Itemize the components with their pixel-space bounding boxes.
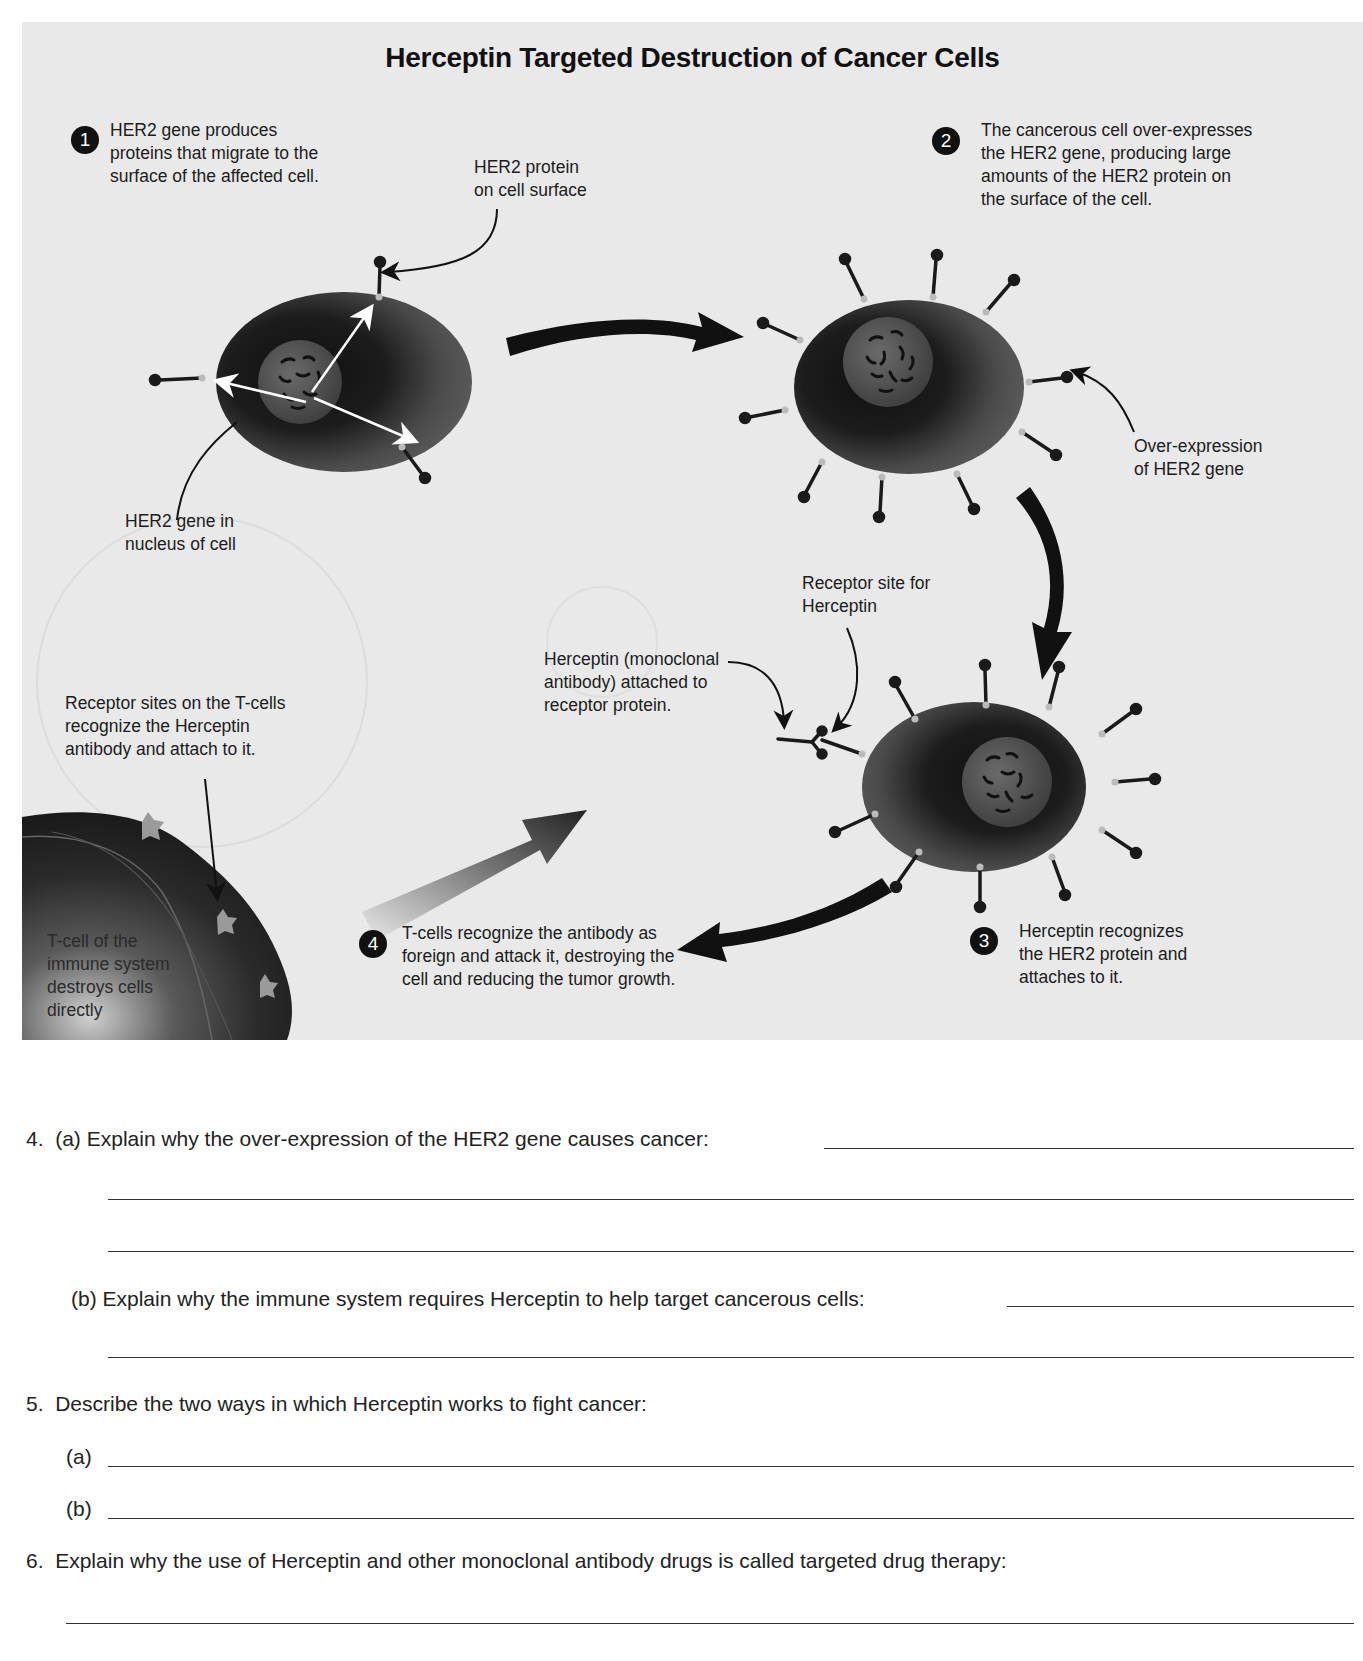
label-line: destroys cells [47,976,170,999]
label-line: Herceptin (monoclonal [544,648,719,671]
step-2-line: The cancerous cell over-expresses [981,119,1252,142]
question-number: 6. [26,1549,44,1572]
over-expression-label: Over-expression of HER2 gene [1134,435,1262,481]
answer-line-4b-1[interactable] [1007,1306,1354,1307]
tcell-attack-arrow [362,810,587,940]
label-line: HER2 gene in [125,510,236,533]
label-line: recognize the Herceptin [65,715,285,738]
step-1-line: proteins that migrate to the [110,142,319,165]
step-4-text: T-cells recognize the antibody as foreig… [402,922,675,991]
cancer-cell-overexpressing [741,251,1072,522]
question-text: Explain why the immune system requires H… [103,1287,865,1310]
step-3-badge: 3 [970,927,998,955]
label-line: antibody) attached to [544,671,719,694]
answer-line-5b[interactable] [108,1518,1354,1519]
step-1-line: HER2 gene produces [110,119,319,142]
her2-protein-pointer [388,209,497,272]
label-line: of HER2 gene [1134,458,1262,481]
label-line: on cell surface [474,179,587,202]
tcell-label: T-cell of the immune system destroys cel… [47,930,170,1022]
step-1-line: surface of the affected cell. [110,165,319,188]
step-4-line: T-cells recognize the antibody as [402,922,675,945]
progress-arrow-3-4 [677,878,892,962]
step-3-line: Herceptin recognizes [1019,920,1187,943]
step-4-badge: 4 [359,930,387,958]
label-line: Receptor sites on the T-cells [65,692,285,715]
step-4-line: cell and reducing the tumor growth. [402,968,675,991]
step-3-line: the HER2 protein and [1019,943,1187,966]
her2-protein-label: HER2 protein on cell surface [474,156,587,202]
answer-line-4b-2[interactable] [108,1357,1354,1358]
step-2-line: amounts of the HER2 protein on [981,165,1252,188]
question-text: Explain why the over-expression of the H… [87,1127,709,1150]
diagram-title: Herceptin Targeted Destruction of Cancer… [22,42,1363,74]
answer-line-4a-2[interactable] [108,1199,1354,1200]
step-2-text: The cancerous cell over-expresses the HE… [981,119,1252,211]
part-label: (a) [55,1127,81,1150]
label-line: receptor protein. [544,694,719,717]
progress-arrow-2-3 [1016,487,1072,680]
step-3-line: attaches to it. [1019,966,1187,989]
step-2-badge: 2 [932,127,960,155]
her2-gene-label: HER2 gene in nucleus of cell [125,510,236,556]
question-number: 5. [26,1392,44,1415]
herceptin-attached-label: Herceptin (monoclonal antibody) attached… [544,648,719,717]
question-text: Explain why the use of Herceptin and oth… [55,1549,1006,1572]
herceptin-attached-pointer [728,662,784,722]
label-line: directly [47,999,170,1022]
answer-line-6[interactable] [66,1623,1354,1624]
label-line: HER2 protein [474,156,587,179]
step-1-text: HER2 gene produces proteins that migrate… [110,119,319,188]
label-line: immune system [47,953,170,976]
diagram-panel: Herceptin Targeted Destruction of Cancer… [22,22,1363,1040]
step-4-line: foreign and attack it, destroying the [402,945,675,968]
step-2-line: the HER2 gene, producing large [981,142,1252,165]
label-line: Over-expression [1134,435,1262,458]
normal-cell [151,258,473,483]
receptor-site-pointer [837,628,857,727]
question-text: Describe the two ways in which Herceptin… [55,1392,647,1415]
progress-arrow-1-2 [506,312,744,356]
question-5b-label: (b) [66,1497,92,1521]
part-label: (b) [71,1287,97,1310]
overexpression-pointer [1077,372,1134,432]
question-5: 5. Describe the two ways in which Hercep… [26,1392,647,1416]
step-3-text: Herceptin recognizes the HER2 protein an… [1019,920,1187,989]
label-line: Receptor site for [802,572,930,595]
label-line: nucleus of cell [125,533,236,556]
cancer-cell-with-herceptin [778,661,1160,912]
answer-line-5a[interactable] [108,1466,1354,1467]
answer-line-4a-3[interactable] [108,1251,1354,1252]
step-1-badge: 1 [71,126,99,154]
step-2-line: the surface of the cell. [981,188,1252,211]
answer-line-4a-1[interactable] [824,1148,1354,1149]
tcell-receptor-label: Receptor sites on the T-cells recognize … [65,692,285,761]
question-4a: 4. (a) Explain why the over-expression o… [26,1127,709,1151]
label-line: Herceptin [802,595,930,618]
question-number: 4. [26,1127,44,1150]
question-4b: (b) Explain why the immune system requir… [71,1287,865,1311]
question-6: 6. Explain why the use of Herceptin and … [26,1549,1007,1573]
receptor-site-label: Receptor site for Herceptin [802,572,930,618]
label-line: T-cell of the [47,930,170,953]
question-5a-label: (a) [66,1445,92,1469]
label-line: antibody and attach to it. [65,738,285,761]
her2-gene-pointer [177,422,237,520]
